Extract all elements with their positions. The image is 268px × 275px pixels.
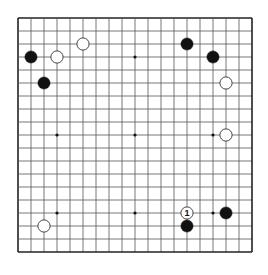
black-stone [25, 51, 37, 63]
move-number-label: 1 [184, 208, 189, 218]
star-point [55, 133, 58, 136]
black-stone [220, 207, 232, 219]
white-stone [38, 220, 50, 232]
star-point [133, 55, 136, 58]
black-stone [207, 51, 219, 63]
star-point [133, 211, 136, 214]
black-stone [181, 38, 193, 50]
white-stone [51, 51, 63, 63]
go-board[interactable]: 1 [0, 0, 268, 275]
white-stone: 1 [181, 207, 193, 219]
black-stone [38, 77, 50, 89]
white-stone [220, 129, 232, 141]
star-point [133, 133, 136, 136]
star-point [55, 211, 58, 214]
star-point [211, 211, 214, 214]
white-stone [220, 77, 232, 89]
black-stone [181, 220, 193, 232]
white-stone [77, 38, 89, 50]
star-point [211, 133, 214, 136]
